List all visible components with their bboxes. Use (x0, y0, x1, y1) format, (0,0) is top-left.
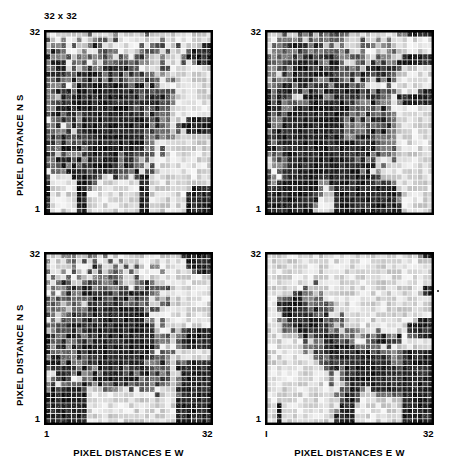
y-tick-min-panel-10-years: 1 (16, 413, 40, 424)
y-axis-label-panel-0-1-year: PIXEL DISTANCE N S (14, 94, 25, 196)
y-tick-max-panel-10-years: 32 (16, 248, 40, 259)
y-tick-max-panel-0-1-year: 32 (16, 26, 40, 37)
heatmap-grid-10-years (44, 252, 213, 425)
y-tick-min-panel-0-1-year: 1 (16, 203, 40, 214)
y-axis-label-panel-10-years: PIXEL DISTANCE N S (14, 304, 25, 406)
four-panel-heatmap-figure: 32 x 32 0.1 YEAR 32 1 PIXEL DISTANCE N S… (0, 0, 449, 467)
grid-size-note: 32 x 32 (44, 10, 77, 21)
y-tick-max-panel-1-0-year: 32 (237, 26, 261, 37)
x-axis-label-panel-50-years: PIXEL DISTANCES E W (265, 447, 434, 458)
x-tick-min-panel-10-years: 1 (44, 428, 49, 439)
x-axis-label-panel-10-years: PIXEL DISTANCES E W (44, 447, 213, 458)
heatmap-grid-0-1-year (44, 30, 213, 215)
scan-speck (437, 290, 439, 292)
heatmap-grid-50-years (265, 252, 434, 425)
x-tick-max-panel-50-years: 32 (423, 428, 434, 439)
heatmap-grid-1-0-year (265, 30, 434, 215)
x-tick-max-panel-10-years: 32 (202, 428, 213, 439)
y-tick-max-panel-50-years: 32 (237, 248, 261, 259)
y-tick-min-panel-50-years: 1 (237, 413, 261, 424)
y-tick-min-panel-1-0-year: 1 (237, 203, 261, 214)
x-tick-min-panel-50-years: I (265, 428, 268, 439)
